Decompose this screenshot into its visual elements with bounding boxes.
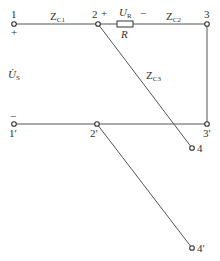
node-label-3p: 3′ bbox=[203, 127, 211, 139]
terminal-4 bbox=[190, 146, 195, 151]
label-us: U̇S bbox=[8, 68, 20, 82]
minus-sign-1p: − bbox=[10, 110, 16, 122]
label-r: R bbox=[120, 28, 128, 40]
node-label-1: 1 bbox=[11, 8, 17, 20]
node-label-1p: 1′ bbox=[9, 127, 17, 139]
node-label-2: 2 bbox=[92, 8, 98, 20]
circuit-diagram: 1 2 3 1′ 2′ 3′ 4 4′ + + − − ZC1 ZC2 ZC3 … bbox=[0, 0, 220, 261]
label-ur: UR bbox=[119, 6, 132, 20]
terminal-1p bbox=[12, 122, 17, 127]
minus-sign-r: − bbox=[140, 7, 146, 19]
resistor-symbol bbox=[117, 21, 133, 27]
node-label-2p: 2′ bbox=[90, 127, 98, 139]
plus-sign-2: + bbox=[101, 7, 107, 19]
node-label-4: 4 bbox=[197, 142, 203, 154]
terminal-2 bbox=[96, 22, 101, 27]
terminal-2p bbox=[95, 122, 100, 127]
label-zc2: ZC2 bbox=[166, 10, 181, 24]
terminal-3 bbox=[205, 22, 210, 27]
wire-2p-to-4p bbox=[97, 124, 192, 248]
plus-sign-1: + bbox=[11, 26, 17, 38]
terminal-4p bbox=[190, 246, 195, 251]
node-label-4p: 4′ bbox=[197, 242, 205, 254]
label-zc3: ZC3 bbox=[146, 69, 161, 83]
wire-2-to-4 bbox=[98, 24, 192, 148]
label-zc1: ZC1 bbox=[50, 10, 65, 24]
node-label-3: 3 bbox=[204, 8, 210, 20]
terminal-3p bbox=[205, 122, 210, 127]
